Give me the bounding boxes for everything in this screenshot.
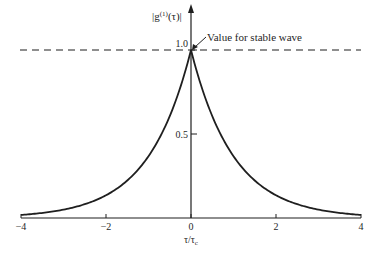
x-tick-label: −2: [101, 221, 112, 232]
y-tick-label: 1.0: [176, 38, 189, 49]
coherence-chart: −4−2024 0.51.0 Value for stable wave |g(…: [0, 0, 375, 257]
x-axis-label: τ/τc: [184, 234, 198, 247]
x-tick-label: 0: [189, 221, 194, 232]
y-label-rest: (τ)|: [168, 10, 182, 23]
x-label-sub: c: [195, 239, 198, 247]
y-axis-arrow-icon: [188, 4, 194, 13]
annotation-arrow-line: [195, 37, 206, 47]
x-tick-label: 2: [274, 221, 279, 232]
y-axis-label: |g(1)(τ)|: [152, 10, 182, 23]
x-label-base: τ/τ: [184, 234, 195, 245]
x-ticks: −4−2024: [16, 214, 364, 232]
y-ticks: 0.51.0: [176, 38, 198, 140]
x-tick-label: −4: [16, 221, 27, 232]
annotation-label: Value for stable wave: [207, 31, 302, 43]
y-tick-label: 0.5: [176, 129, 189, 140]
x-tick-label: 4: [359, 221, 364, 232]
